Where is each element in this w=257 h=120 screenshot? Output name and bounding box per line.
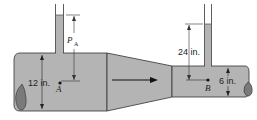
pressure-head-a-label: P <box>66 35 73 45</box>
point-a-label: A <box>55 84 62 94</box>
point-b-label: B <box>205 83 211 93</box>
height-difference-label: 24 in. <box>178 47 200 57</box>
pressure-head-a-subscript: A <box>74 41 79 47</box>
left-piezometer-fluid <box>56 15 63 54</box>
diameter-small-label: 6 in. <box>219 76 236 86</box>
point-b-marker <box>206 78 209 81</box>
right-piezometer-fluid <box>205 24 211 67</box>
converging-section <box>107 53 172 111</box>
diameter-large-label: 12 in. <box>28 78 50 88</box>
venturi-diagram: P A 12 in. A 24 in. B 6 in. <box>0 0 257 120</box>
